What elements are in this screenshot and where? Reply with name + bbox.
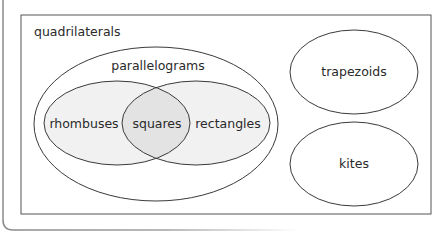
rhombuses-label: rhombuses bbox=[49, 116, 118, 131]
rectangles-label: rectangles bbox=[195, 116, 261, 131]
quadrilaterals-label: quadrilaterals bbox=[34, 24, 121, 39]
squares-label: squares bbox=[132, 116, 181, 131]
venn-diagram: quadrilaterals parallelograms rhombuses … bbox=[0, 0, 447, 232]
kites-label: kites bbox=[339, 156, 369, 171]
parallelograms-label: parallelograms bbox=[111, 58, 205, 73]
trapezoids-label: trapezoids bbox=[321, 64, 386, 79]
